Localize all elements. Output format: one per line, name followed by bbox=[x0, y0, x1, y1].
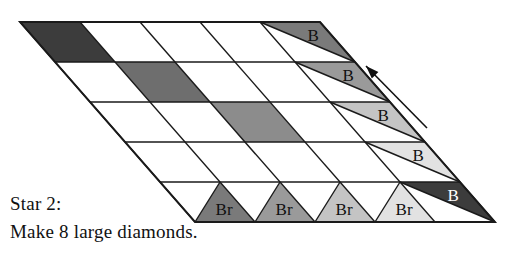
bottom-edge-triangle-label-2: Br bbox=[336, 200, 353, 219]
right-edge-triangle-label-3: B bbox=[413, 146, 424, 165]
right-edge-triangle-label-4: B bbox=[448, 186, 459, 205]
right-edge-triangle-label-2: B bbox=[378, 106, 389, 125]
right-edge-triangle-label-0: B bbox=[308, 26, 319, 45]
right-edge-triangle-label-1: B bbox=[343, 66, 354, 85]
piecing-diagram-svg: BBBBBBrBrBrBr bbox=[0, 0, 525, 258]
caption-line-2: Make 8 large diamonds. bbox=[10, 221, 198, 243]
bottom-edge-triangle-label-1: Br bbox=[276, 200, 293, 219]
caption-line-1: Star 2: bbox=[10, 193, 62, 215]
bottom-edge-triangle-label-0: Br bbox=[216, 200, 233, 219]
figure-canvas: BBBBBBrBrBrBr Star 2: Make 8 large diamo… bbox=[0, 0, 525, 258]
bottom-edge-triangle-label-3: Br bbox=[396, 200, 413, 219]
